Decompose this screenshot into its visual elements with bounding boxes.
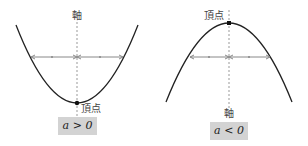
vertex-point (75, 101, 79, 105)
axis-label: 軸 (224, 109, 234, 119)
vertex-label: 頂点 (81, 104, 101, 114)
parabola-diagrams (0, 0, 308, 146)
vertex-label: 頂点 (204, 11, 224, 21)
axis-label: 軸 (72, 11, 82, 21)
vertex-point (227, 21, 231, 25)
parabola-down (166, 10, 292, 108)
condition-box: a < 0 (210, 122, 248, 140)
condition-box: a > 0 (58, 117, 97, 135)
parabola-up (16, 22, 138, 118)
